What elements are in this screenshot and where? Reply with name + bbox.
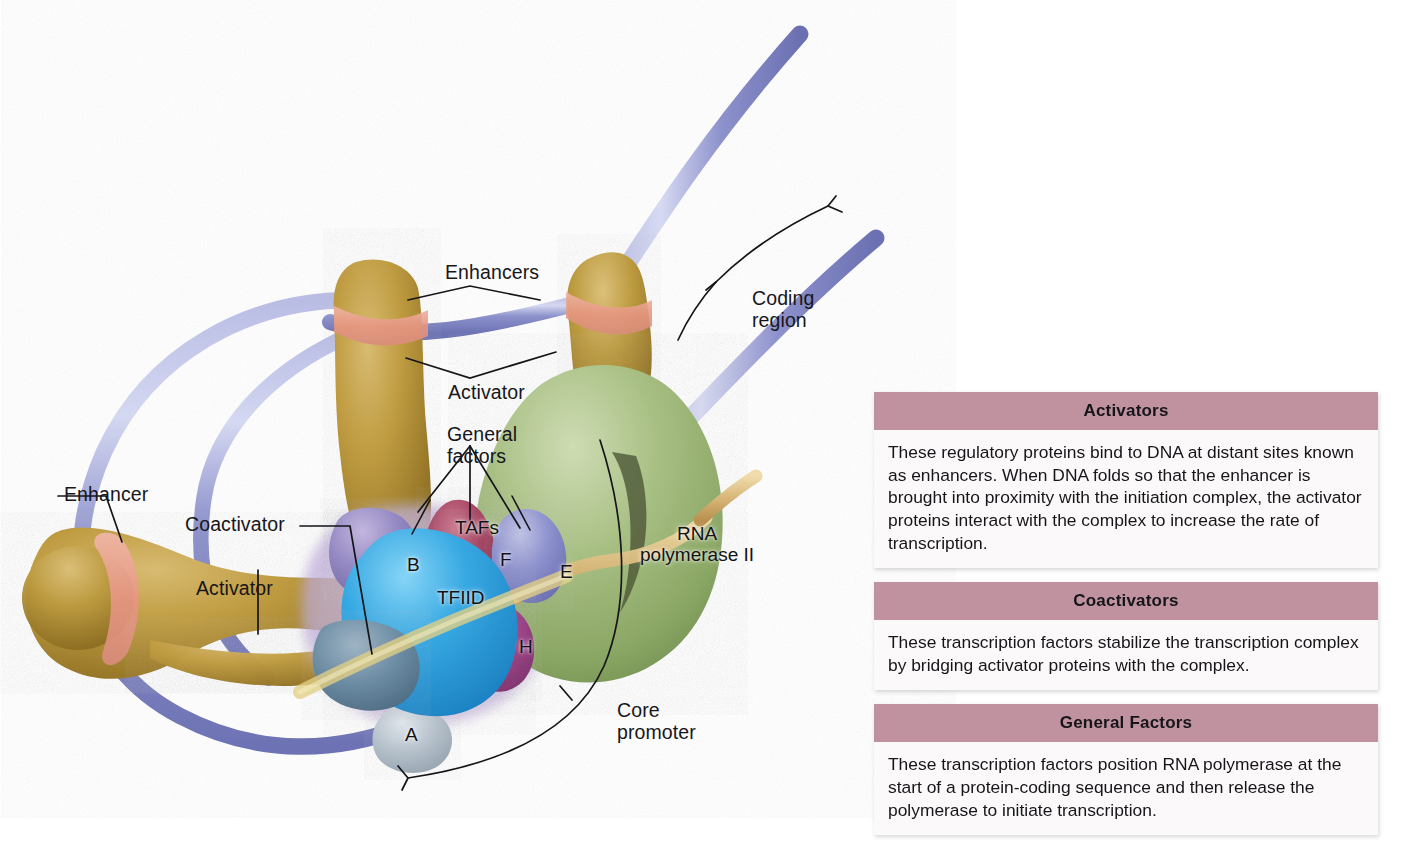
label-core-promoter: Core promoter (617, 700, 696, 744)
figure-canvas: Enhancers Activator General factors Codi… (0, 0, 1401, 852)
panel-general-factors-text: These transcription factors position RNA… (888, 753, 1364, 821)
label-tfiid: TFIID (437, 588, 485, 609)
panel-coactivators-text: These transcription factors stabilize th… (888, 631, 1364, 676)
label-activator-left: Activator (196, 578, 273, 600)
panel-activators-text: These regulatory proteins bind to DNA at… (888, 441, 1364, 554)
panel-activators-body: These regulatory proteins bind to DNA at… (874, 430, 1378, 568)
label-general-factors: General factors (447, 424, 517, 468)
label-activator-top: Activator (448, 382, 525, 404)
panel-general-factors: General Factors These transcription fact… (874, 704, 1378, 835)
label-subunit-b: B (407, 555, 420, 576)
panel-activators-title: Activators (874, 392, 1378, 430)
label-coding-region: Coding region (752, 288, 814, 332)
label-rna-polymerase: RNA polymerase II (640, 524, 754, 566)
panel-coactivators: Coactivators These transcription factors… (874, 582, 1378, 690)
label-subunit-h: H (519, 637, 533, 658)
label-enhancers-top: Enhancers (445, 262, 539, 284)
label-subunit-e: E (560, 562, 573, 583)
transcription-illustration: Enhancers Activator General factors Codi… (0, 0, 880, 852)
illustration-svg (0, 0, 880, 852)
label-subunit-f: F (500, 550, 512, 571)
label-enhancer-left: Enhancer (64, 484, 148, 506)
info-panel-group: Activators These regulatory proteins bin… (874, 392, 1378, 849)
panel-activators: Activators These regulatory proteins bin… (874, 392, 1378, 568)
panel-coactivators-body: These transcription factors stabilize th… (874, 620, 1378, 690)
panel-coactivators-title: Coactivators (874, 582, 1378, 620)
panel-general-factors-body: These transcription factors position RNA… (874, 742, 1378, 835)
panel-general-factors-title: General Factors (874, 704, 1378, 742)
label-tafs: TAFs (455, 518, 499, 539)
label-coactivator: Coactivator (185, 514, 285, 536)
label-subunit-a: A (405, 725, 418, 746)
